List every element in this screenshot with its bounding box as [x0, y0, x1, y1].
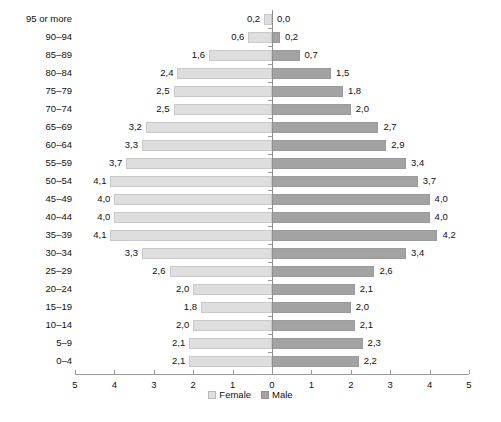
value-label-female: 0,6 [200, 28, 244, 46]
value-label-male: 4,0 [435, 208, 479, 226]
bar-female [174, 104, 273, 115]
bar-area: 0,20,0 [0, 10, 501, 28]
bar-area: 3,22,7 [0, 118, 501, 136]
value-label-female: 4,1 [62, 172, 106, 190]
bar-area: 3,32,9 [0, 136, 501, 154]
value-label-female: 2,0 [145, 316, 189, 334]
row-tick [268, 172, 272, 173]
axis-line [75, 374, 469, 375]
value-label-male: 2,9 [391, 136, 435, 154]
center-axis-line [272, 10, 273, 374]
bar-male [272, 50, 300, 61]
bar-female [201, 302, 272, 313]
bar-male [272, 140, 386, 151]
legend-label: Male [272, 389, 293, 400]
row-tick [268, 64, 272, 65]
population-pyramid-chart: 95 or more0,20,090–940,60,285–891,60,780… [0, 0, 501, 422]
value-label-female: 2,6 [122, 262, 166, 280]
axis-tick [154, 370, 155, 374]
bar-area: 2,62,6 [0, 262, 501, 280]
row-tick [268, 262, 272, 263]
value-label-female: 3,2 [98, 118, 142, 136]
axis-tick [272, 370, 273, 374]
pyramid-row: 70–742,52,0 [0, 100, 501, 118]
value-label-female: 2,5 [126, 100, 170, 118]
bar-female [177, 68, 272, 79]
value-label-male: 2,1 [360, 280, 404, 298]
row-tick [268, 226, 272, 227]
value-label-female: 1,6 [161, 46, 205, 64]
legend-item: Female [208, 389, 251, 400]
pyramid-row: 35–394,14,2 [0, 226, 501, 244]
value-label-male: 3,7 [423, 172, 467, 190]
bar-female [193, 284, 272, 295]
axis-tick [311, 370, 312, 374]
value-label-female: 3,7 [78, 154, 122, 172]
bar-male [272, 86, 343, 97]
bar-area: 2,02,1 [0, 316, 501, 334]
bar-area: 4,14,2 [0, 226, 501, 244]
bar-female [114, 212, 272, 223]
bar-male [272, 176, 418, 187]
axis-tick [233, 370, 234, 374]
row-tick [268, 190, 272, 191]
value-label-male: 0,2 [285, 28, 329, 46]
value-label-female: 2,4 [129, 64, 173, 82]
value-label-female: 4,1 [62, 226, 106, 244]
value-label-male: 2,2 [364, 352, 408, 370]
pyramid-row: 50–544,13,7 [0, 172, 501, 190]
bar-female [193, 320, 272, 331]
bar-area: 4,04,0 [0, 190, 501, 208]
pyramid-row: 80–842,41,5 [0, 64, 501, 82]
bar-area: 2,02,1 [0, 280, 501, 298]
figure-caption [3, 411, 498, 422]
bar-male [272, 104, 351, 115]
bar-male [272, 230, 437, 241]
value-label-male: 2,3 [368, 334, 412, 352]
row-tick [268, 280, 272, 281]
row-tick [268, 136, 272, 137]
value-label-male: 1,5 [336, 64, 380, 82]
bar-female [142, 140, 272, 151]
bar-female [126, 158, 272, 169]
bar-area: 1,82,0 [0, 298, 501, 316]
value-label-male: 2,0 [356, 298, 400, 316]
value-label-female: 2,1 [141, 334, 185, 352]
row-tick [268, 244, 272, 245]
pyramid-row: 90–940,60,2 [0, 28, 501, 46]
value-label-male: 0,7 [305, 46, 349, 64]
bar-area: 4,13,7 [0, 172, 501, 190]
pyramid-row: 30–343,33,4 [0, 244, 501, 262]
value-label-male: 3,4 [411, 154, 455, 172]
row-tick [268, 352, 272, 353]
bar-male [272, 158, 406, 169]
bar-male [272, 302, 351, 313]
value-label-male: 2,1 [360, 316, 404, 334]
bar-female [142, 248, 272, 259]
bar-area: 0,60,2 [0, 28, 501, 46]
bar-male [272, 194, 430, 205]
row-tick [268, 208, 272, 209]
bar-female [110, 230, 272, 241]
pyramid-row: 0–42,12,2 [0, 352, 501, 370]
value-label-male: 1,8 [348, 82, 392, 100]
bar-female [189, 356, 272, 367]
bar-area: 3,73,4 [0, 154, 501, 172]
row-tick [268, 334, 272, 335]
pyramid-row: 75–792,51,8 [0, 82, 501, 100]
value-label-male: 3,4 [411, 244, 455, 262]
bar-male [272, 68, 331, 79]
value-label-female: 2,5 [126, 82, 170, 100]
bar-area: 2,52,0 [0, 100, 501, 118]
value-label-female: 1,8 [153, 298, 197, 316]
chart-legend: FemaleMale [0, 389, 501, 400]
axis-tick [430, 370, 431, 374]
pyramid-row: 95 or more0,20,0 [0, 10, 501, 28]
bar-male [272, 284, 355, 295]
axis-tick [114, 370, 115, 374]
bar-male [272, 320, 355, 331]
bar-female [189, 338, 272, 349]
row-tick [268, 316, 272, 317]
bar-female [114, 194, 272, 205]
pyramid-row: 25–292,62,6 [0, 262, 501, 280]
